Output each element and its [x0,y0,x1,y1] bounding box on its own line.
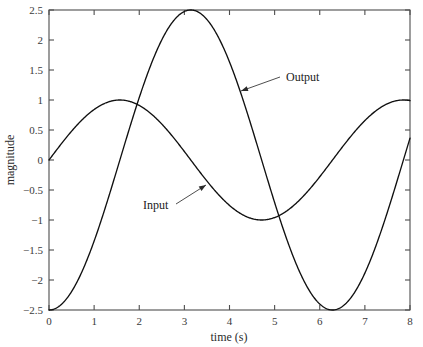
annotation-label-input: Input [143,198,169,212]
chart-background [0,0,423,347]
y-tick-label-2.5: 2.5 [29,4,43,16]
x-tick-label-6: 6 [317,315,323,327]
x-tick-label-1: 1 [91,315,97,327]
y-axis-title: magnitude [3,135,17,186]
x-tick-label-5: 5 [272,315,278,327]
x-tick-label-7: 7 [362,315,368,327]
chart-figure: 012345678 −2.5−2−1.5−1−0.500.511.522.5 O… [0,0,423,347]
y-tick-label--1.5: −1.5 [23,244,43,256]
x-tick-label-8: 8 [407,315,413,327]
y-tick-label-1: 1 [38,94,44,106]
y-tick-label--2: −2 [31,274,43,286]
x-axis-title: time (s) [211,330,248,344]
y-tick-label-0.5: 0.5 [29,124,43,136]
y-tick-label-2: 2 [38,34,44,46]
y-tick-label--1: −1 [31,214,43,226]
x-tick-label-3: 3 [182,315,188,327]
y-tick-label-0: 0 [38,154,44,166]
y-tick-label--0.5: −0.5 [23,184,43,196]
x-tick-label-4: 4 [227,315,233,327]
magnitude-vs-time-line-chart: 012345678 −2.5−2−1.5−1−0.500.511.522.5 O… [0,0,423,347]
annotation-label-output: Output [286,70,320,84]
y-tick-label--2.5: −2.5 [23,304,43,316]
x-tick-label-2: 2 [137,315,143,327]
x-tick-label-0: 0 [46,315,52,327]
y-tick-label-1.5: 1.5 [29,64,43,76]
